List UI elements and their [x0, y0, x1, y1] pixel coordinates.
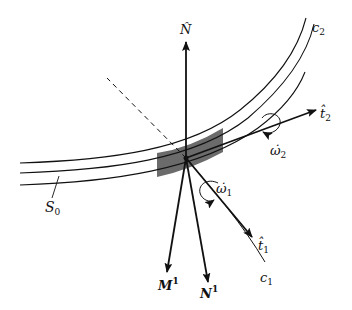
- m1-label: M1: [157, 276, 179, 293]
- svg-text:t̂1: t̂1: [258, 236, 269, 255]
- c1-label: c1: [260, 270, 273, 287]
- n1-arrow: [186, 158, 208, 282]
- omega2-label: ω̇2: [270, 143, 286, 160]
- curve-outer: [20, 18, 306, 163]
- curve-inner: [20, 72, 305, 185]
- svg-text:c1: c1: [260, 270, 273, 287]
- s0-leader: [52, 176, 59, 198]
- svg-text:t̂2: t̂2: [320, 104, 331, 123]
- svg-text:ω̇1: ω̇1: [216, 181, 232, 198]
- t1-hat-label: t̂1: [258, 236, 269, 255]
- svg-text:M1: M1: [157, 276, 179, 293]
- n1-label: N1: [199, 284, 218, 301]
- vectors: [167, 42, 316, 282]
- t2-hat-label: t̂2: [320, 104, 331, 123]
- t2-hat-arrow: [186, 110, 316, 158]
- svg-text:S0: S0: [45, 199, 61, 217]
- dashed-normal-line: [107, 78, 186, 158]
- s0-label: S0: [45, 199, 61, 217]
- origin-point: [184, 156, 189, 161]
- svg-text:ω̇2: ω̇2: [270, 143, 286, 160]
- c2-label: c2: [312, 20, 325, 37]
- c1-curve: [186, 158, 265, 262]
- m1-arrow: [167, 158, 186, 272]
- svg-text:N1: N1: [199, 284, 218, 301]
- t1-hat-arrow: [186, 158, 252, 237]
- diagram-canvas: N̂ t̂2 ω̇2 ω̇1 t̂1 M1 N1 c1 c2 S0: [0, 0, 352, 310]
- svg-text:c2: c2: [312, 20, 325, 37]
- omega1-label: ω̇1: [216, 181, 232, 198]
- n-hat-label: N̂: [179, 22, 192, 37]
- svg-text:N̂: N̂: [179, 22, 192, 37]
